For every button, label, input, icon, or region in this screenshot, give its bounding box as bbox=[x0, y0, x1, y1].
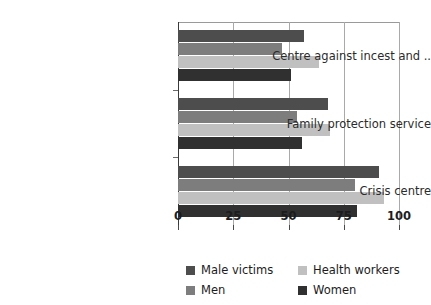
group-separator-tick-1 bbox=[173, 90, 178, 91]
legend-swatch-women-icon bbox=[298, 286, 307, 295]
bar-male-victims-group-2 bbox=[178, 166, 379, 178]
legend-swatch-male-victims-icon bbox=[186, 266, 195, 275]
legend-swatch-men-icon bbox=[186, 286, 195, 295]
legend-item-women[interactable]: Women bbox=[298, 283, 424, 297]
bar-male-victims-group-0 bbox=[178, 30, 304, 42]
x-tick-label-50: 50 bbox=[280, 209, 296, 223]
category-label-1: Family protection service bbox=[259, 117, 431, 131]
chart-legend: Male victimsHealth workersMenWomen bbox=[186, 260, 424, 300]
legend-item-health-workers[interactable]: Health workers bbox=[298, 263, 424, 277]
category-label-2: Crisis centre bbox=[259, 184, 431, 198]
x-tick-label-0: 0 bbox=[174, 209, 182, 223]
x-tick-50 bbox=[289, 225, 290, 230]
x-tick-25 bbox=[233, 225, 234, 230]
bar-women-group-2 bbox=[178, 205, 357, 217]
legend-label-male-victims: Male victims bbox=[201, 263, 273, 277]
bar-male-victims-group-1 bbox=[178, 98, 328, 110]
bar-women-group-0 bbox=[178, 69, 291, 81]
bar-chart: Centre against incest and ..Family prote… bbox=[0, 0, 431, 305]
group-separator-tick-2 bbox=[173, 157, 178, 158]
bar-women-group-1 bbox=[178, 137, 302, 149]
legend-label-women: Women bbox=[313, 283, 356, 297]
legend-item-men[interactable]: Men bbox=[186, 283, 298, 297]
category-label-0: Centre against incest and .. bbox=[259, 49, 431, 63]
x-tick-75 bbox=[344, 225, 345, 230]
x-tick-100 bbox=[399, 225, 400, 230]
legend-swatch-health-workers-icon bbox=[298, 266, 307, 275]
x-tick-0 bbox=[178, 225, 179, 230]
x-tick-label-75: 75 bbox=[336, 209, 352, 223]
legend-item-male-victims[interactable]: Male victims bbox=[186, 263, 298, 277]
legend-label-health-workers: Health workers bbox=[313, 263, 400, 277]
legend-label-men: Men bbox=[201, 283, 225, 297]
x-tick-label-25: 25 bbox=[225, 209, 241, 223]
x-tick-label-100: 100 bbox=[387, 209, 411, 223]
